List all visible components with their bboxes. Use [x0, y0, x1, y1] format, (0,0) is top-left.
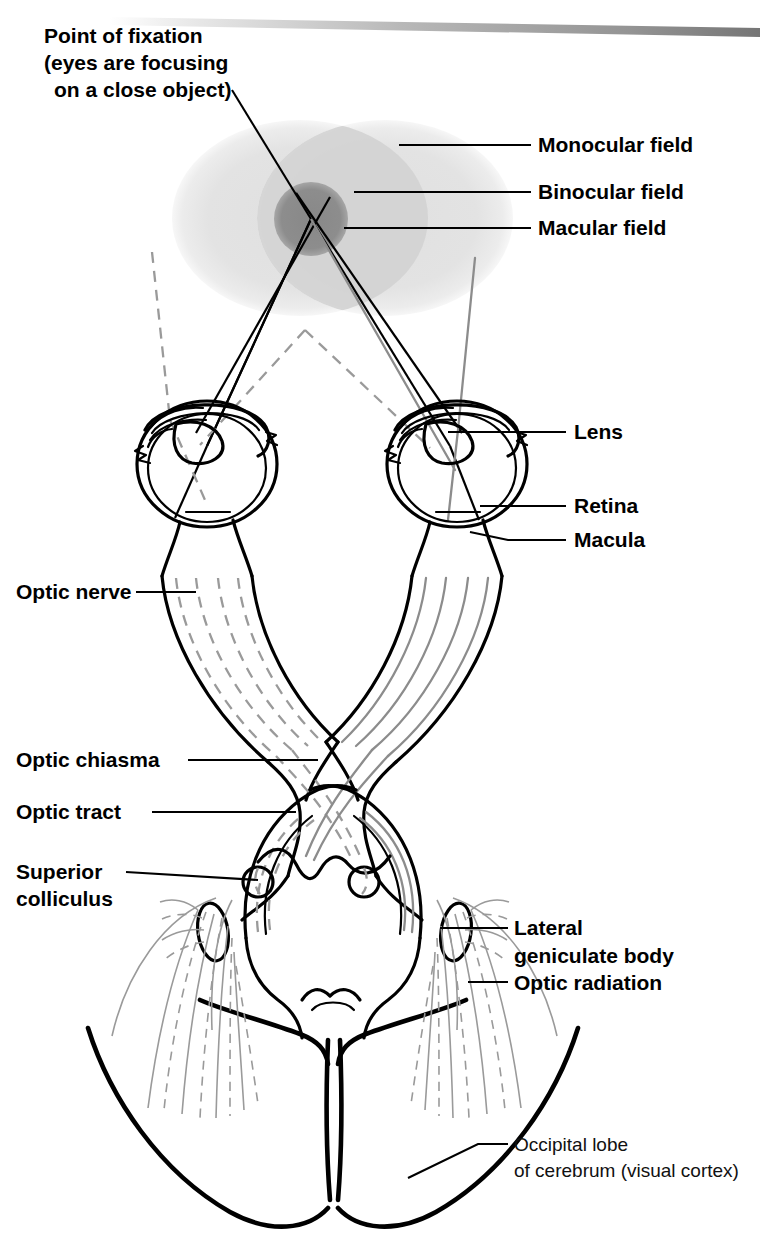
point-of-fixation-line3: on a close object) [54, 78, 231, 101]
optic-tract-label: Optic tract [16, 800, 121, 823]
optic-nerve-label: Optic nerve [16, 580, 132, 603]
superior-colliculus-line1: Superior [16, 860, 102, 883]
lateral-geniculate-line2: geniculate body [514, 944, 674, 967]
occipital-lobe-line1: Occipital lobe [514, 1134, 628, 1155]
point-of-fixation-line1: Point of fixation [44, 24, 203, 47]
optic-radiation-label: Optic radiation [514, 971, 662, 994]
macular-field-label: Macular field [538, 216, 666, 239]
visual-field-group [172, 120, 513, 316]
lateral-geniculate-line1: Lateral [514, 916, 583, 939]
binocular-field-label: Binocular field [538, 180, 684, 203]
monocular-field-label: Monocular field [538, 133, 693, 156]
superior-colliculus-line2: colliculus [16, 887, 113, 910]
lens-label: Lens [574, 420, 623, 443]
visual-pathway-figure: Point of fixation (eyes are focusing on … [0, 0, 766, 1233]
occipital-lobe-line2: of cerebrum (visual cortex) [514, 1160, 739, 1181]
macula-label: Macula [574, 528, 646, 551]
visual-pathway-diagram: Point of fixation (eyes are focusing on … [0, 0, 766, 1233]
retina-label: Retina [574, 494, 639, 517]
point-of-fixation-line2: (eyes are focusing [44, 51, 228, 74]
optic-chiasma-label: Optic chiasma [16, 748, 160, 771]
